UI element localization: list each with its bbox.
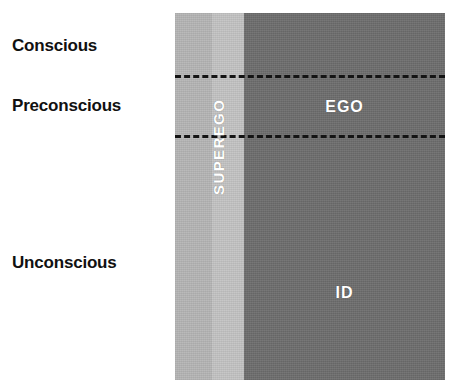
level-label-conscious: Conscious <box>12 37 97 54</box>
level-label-unconscious: Unconscious <box>12 254 117 271</box>
structure-label-id: ID <box>244 285 445 301</box>
divider-conscious-preconscious <box>175 75 445 78</box>
level-label-preconscious: Preconscious <box>12 97 121 114</box>
psyche-structure-box: EGO ID SUPEREGO <box>175 13 445 380</box>
freud-psyche-diagram: Conscious Preconscious Unconscious EGO I… <box>0 0 451 392</box>
structure-label-superego: SUPEREGO <box>211 99 226 195</box>
id-ego-band <box>244 13 445 380</box>
superego-band <box>175 13 244 380</box>
structure-label-ego: EGO <box>244 99 445 115</box>
